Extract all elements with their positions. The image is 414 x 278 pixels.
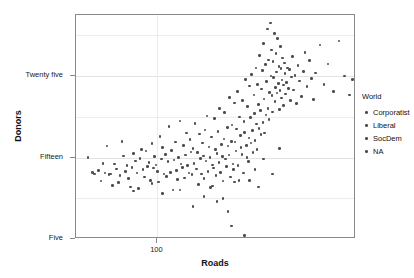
data-point [258, 54, 261, 57]
gridline-horizontal-minor [76, 198, 354, 199]
data-point [225, 165, 228, 168]
data-point [161, 192, 164, 195]
data-point [243, 120, 246, 123]
data-point [281, 57, 284, 60]
data-point [188, 172, 191, 175]
data-point [170, 149, 173, 152]
y-tick-label: Twenty five [0, 71, 63, 79]
data-point [228, 154, 231, 157]
data-point [295, 102, 298, 105]
y-axis-title: Donors [13, 110, 23, 142]
legend-item-label: Corporatist [373, 108, 410, 117]
data-point [196, 151, 199, 154]
data-point [251, 129, 254, 132]
legend-item[interactable]: Liberal [362, 119, 414, 132]
data-point [146, 165, 149, 168]
data-point [268, 118, 271, 121]
data-point [280, 97, 283, 100]
data-point [272, 76, 275, 79]
data-point [209, 156, 212, 159]
data-point [233, 181, 236, 184]
data-point [273, 32, 276, 35]
data-point [239, 134, 242, 137]
data-point [115, 168, 118, 171]
data-point [211, 164, 214, 167]
data-point [161, 146, 164, 149]
data-point [200, 173, 203, 176]
data-point [134, 160, 137, 163]
data-point [157, 181, 160, 184]
data-point [223, 138, 226, 141]
data-point [300, 95, 303, 98]
data-point [153, 155, 156, 158]
legend-item-label: NA [373, 147, 383, 156]
data-point [259, 109, 262, 112]
data-point [250, 73, 253, 76]
legend-items: CorporatistLiberalSocDemNA [362, 106, 414, 158]
data-point [145, 150, 148, 153]
data-point [271, 94, 274, 97]
data-point [126, 164, 129, 167]
data-point [223, 111, 226, 114]
data-point [266, 28, 269, 31]
data-point [151, 142, 154, 145]
data-point [253, 94, 256, 97]
data-point [172, 189, 175, 192]
data-point [186, 164, 189, 167]
data-point [137, 187, 140, 190]
data-point [194, 122, 197, 125]
data-point [262, 158, 265, 161]
data-point [149, 179, 152, 182]
data-point [142, 168, 145, 171]
data-point [306, 85, 309, 88]
data-point [252, 151, 255, 154]
data-point [298, 80, 301, 83]
data-point [232, 168, 235, 171]
data-point [208, 146, 211, 149]
data-point [310, 77, 313, 80]
data-point [247, 160, 250, 163]
data-point [127, 177, 130, 180]
data-point [203, 177, 206, 180]
x-axis-title: Roads [75, 258, 355, 268]
data-point [179, 120, 182, 123]
data-point [243, 131, 246, 134]
data-point [267, 107, 270, 110]
data-point [255, 67, 258, 70]
data-point [179, 189, 182, 192]
data-point [283, 62, 286, 65]
data-point [261, 69, 264, 72]
data-point [277, 82, 280, 85]
x-tick-mark [156, 238, 157, 243]
data-point [308, 59, 311, 62]
data-point [280, 67, 283, 70]
scatter-plot-figure: Donors FiveFifteenTwenty five 100 Roads … [0, 0, 414, 278]
data-point [282, 104, 285, 107]
data-point [263, 132, 266, 135]
data-point [256, 83, 259, 86]
data-point [201, 142, 204, 145]
data-point [271, 111, 274, 114]
data-point [117, 181, 120, 184]
legend-item[interactable]: NA [362, 145, 414, 158]
data-point [243, 234, 246, 237]
legend-item[interactable]: Corporatist [362, 106, 414, 119]
data-point [291, 55, 294, 58]
data-point [104, 172, 107, 175]
legend-item[interactable]: SocDem [362, 132, 414, 145]
gridline-vertical [157, 15, 158, 237]
data-point [195, 168, 198, 171]
data-point [304, 51, 307, 54]
data-point [165, 175, 168, 178]
data-point [241, 99, 244, 102]
data-point [230, 140, 233, 143]
data-point [271, 173, 274, 176]
data-point [204, 129, 207, 132]
data-point [224, 158, 227, 161]
data-point [257, 103, 260, 106]
data-point [275, 52, 278, 55]
data-point [288, 68, 291, 71]
legend: World CorporatistLiberalSocDemNA [362, 92, 414, 158]
data-point [292, 89, 295, 92]
data-point [109, 173, 112, 176]
